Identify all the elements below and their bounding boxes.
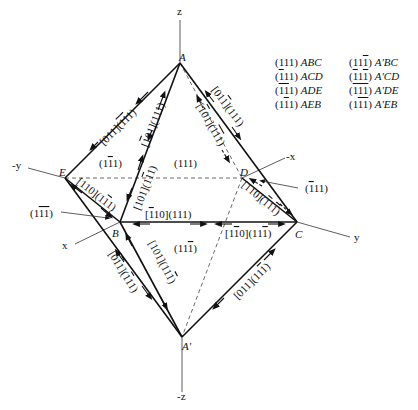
- vertex-A: A: [178, 51, 186, 63]
- edge-label-EB: [110](111): [74, 175, 119, 214]
- legend-left: (111) ADE: [275, 83, 349, 97]
- arrow-BA-prime-down: [160, 296, 166, 307]
- y-axis: [297, 222, 350, 237]
- axis-label-y: y: [354, 231, 360, 243]
- legend-left: (111) ACD: [275, 69, 349, 83]
- edge-label-BC: [110](111): [145, 208, 192, 221]
- axis-label-z: z: [177, 5, 182, 17]
- axis-label-neg-z: -z: [177, 390, 186, 402]
- legend-left: (111) AEB: [275, 97, 349, 111]
- face-label-1bb: (111): [30, 207, 53, 220]
- axis-label-neg-x: -x: [286, 150, 296, 162]
- legend-right: (111) A'BC: [349, 55, 398, 69]
- axis-label-neg-y: -y: [12, 159, 22, 171]
- edge-label-CB: [110](111): [225, 227, 272, 240]
- neg-x-axis: [242, 158, 285, 178]
- face-label-b11: (111): [305, 182, 328, 195]
- edge-label-AE: [011](111): [97, 106, 139, 148]
- legend-right: (111) A'DE: [349, 83, 399, 97]
- leader-b11: [262, 181, 298, 188]
- legend-row: (111) ABC (111) A'BC: [275, 55, 399, 69]
- arrow-BA-prime-up: [127, 236, 132, 246]
- vertex-C: C: [295, 228, 303, 240]
- edge-CA-prime: [182, 222, 297, 337]
- legend-row: (111) ADE (111) A'DE: [275, 83, 399, 97]
- legend-row: (111) ACD (111) A'CD: [275, 69, 399, 83]
- axis-label-x: x: [62, 239, 68, 251]
- legend-right: (111) A'CD: [349, 69, 399, 83]
- edge-label-AB-lower: [101](111): [131, 163, 160, 212]
- face-label-111: (111): [174, 157, 197, 170]
- vertex-A-prime: A': [181, 340, 192, 352]
- vertex-E: E: [58, 166, 66, 178]
- edge-label-DC: [110](111): [239, 178, 283, 218]
- legend: (111) ABC (111) A'BC (111) ACD (111) A'C…: [275, 55, 399, 111]
- face-labels: (111) (111) (111) (111) (111): [30, 157, 328, 255]
- vertex-D: D: [239, 166, 248, 178]
- legend-right: (111) A'EB: [349, 97, 397, 111]
- legend-row: (111) AEB (111) A'EB: [275, 97, 399, 111]
- edge-label-AB: [101](111): [139, 100, 168, 149]
- face-label-1b1: (111): [99, 157, 122, 170]
- edge-DA-prime: [182, 178, 242, 337]
- legend-left: (111) ABC: [275, 55, 349, 69]
- edge-label-EA-prime: [011](111): [105, 249, 141, 296]
- vertex-B: B: [112, 227, 119, 239]
- leader-1bb: [61, 212, 108, 218]
- edge-labels: [011](111) [101](111) [101](111) [011](1…: [74, 84, 283, 302]
- face-label-11b: (111): [174, 242, 197, 255]
- arrow-CA-prime-up: [264, 251, 273, 260]
- arrow-AD-down: [222, 150, 228, 160]
